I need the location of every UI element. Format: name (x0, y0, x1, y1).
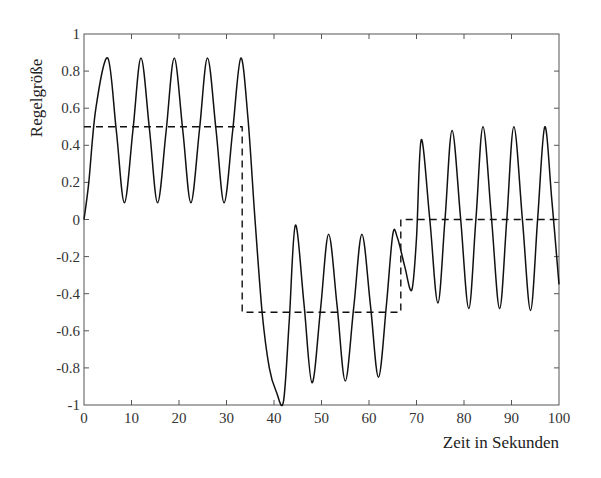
y-tick-label: -0.6 (56, 323, 80, 339)
x-tick-label: 20 (172, 410, 187, 426)
x-tick-label: 90 (504, 410, 519, 426)
y-tick-label: 1 (73, 26, 81, 42)
y-tick-label: -0.4 (56, 286, 80, 302)
y-tick-label: -0.2 (56, 249, 80, 265)
x-tick-label: 100 (548, 410, 571, 426)
y-tick-label: 0.4 (61, 137, 80, 153)
y-axis-label: Regelgröße (27, 59, 46, 137)
x-tick-label: 0 (80, 410, 88, 426)
x-tick-label: 30 (219, 410, 234, 426)
y-tick-label: 0.2 (61, 174, 80, 190)
y-tick-label: 0.8 (61, 63, 80, 79)
x-tick-label: 60 (362, 410, 377, 426)
x-tick-label: 80 (457, 410, 472, 426)
chart-background (0, 0, 601, 478)
x-tick-label: 10 (124, 410, 139, 426)
y-tick-label: 0.6 (61, 100, 80, 116)
y-tick-label: -1 (68, 397, 81, 413)
chart: 0102030405060708090100 -1-0.8-0.6-0.4-0.… (0, 0, 601, 478)
x-tick-label: 70 (409, 410, 424, 426)
x-tick-label: 40 (267, 410, 282, 426)
y-tick-label: 0 (73, 212, 81, 228)
y-tick-label: -0.8 (56, 360, 80, 376)
x-tick-label: 50 (314, 410, 329, 426)
x-axis-label: Zeit in Sekunden (443, 433, 560, 452)
